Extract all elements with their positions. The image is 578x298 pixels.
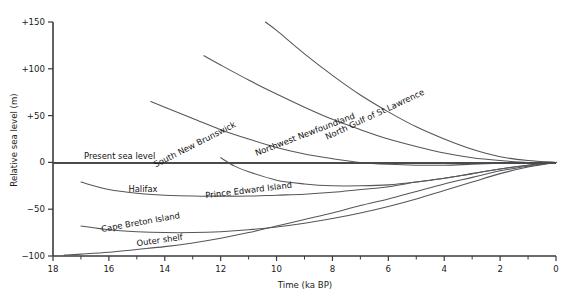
x-tick-label: 4 xyxy=(441,264,446,274)
y-axis-ticks: +150+100+500−50−100 xyxy=(21,17,53,261)
y-tick-label: −50 xyxy=(27,204,45,214)
x-tick-label: 2 xyxy=(497,264,502,274)
x-tick-label: 16 xyxy=(103,264,114,274)
present-sea-level-label: Present sea level xyxy=(84,151,155,161)
relative-sea-level-chart: +150+100+500−50−100 181614121086420 Pres… xyxy=(0,0,578,298)
curve-label-outer-shelf: Outer shelf xyxy=(136,232,185,249)
y-tick-label: +50 xyxy=(27,111,45,121)
curve-label-south-new-brunswick: South New Brunswick xyxy=(152,119,238,169)
x-tick-label: 10 xyxy=(271,264,282,274)
curve-label-north-gulf-of-st-lawrence: North Gulf of St Lawrence xyxy=(324,87,426,142)
sea-level-chart-figure: +150+100+500−50−100 181614121086420 Pres… xyxy=(0,0,578,298)
curve-label-halifax: Halifax xyxy=(128,184,157,194)
x-axis-ticks: 181614121086420 xyxy=(48,256,559,274)
x-tick-label: 0 xyxy=(553,264,558,274)
x-tick-label: 6 xyxy=(386,264,391,274)
x-tick-label: 8 xyxy=(330,264,335,274)
y-tick-label: −100 xyxy=(21,251,45,261)
x-axis-title: Time (ka BP) xyxy=(277,280,332,290)
curve-label-prince-edward-island: Prince Edward Island xyxy=(205,180,293,201)
curve-label-cape-breton-island: Cape Breton Island xyxy=(100,210,180,234)
y-tick-label: +100 xyxy=(21,64,45,74)
y-tick-label: +150 xyxy=(21,17,45,27)
x-tick-label: 18 xyxy=(48,264,59,274)
x-tick-label: 14 xyxy=(159,264,170,274)
curve-label-group: North Gulf of St LawrenceNorthwest Newfo… xyxy=(100,87,425,248)
x-tick-label: 12 xyxy=(215,264,226,274)
y-axis-title: Relative sea level (m) xyxy=(9,93,19,186)
y-tick-label: 0 xyxy=(40,157,45,167)
